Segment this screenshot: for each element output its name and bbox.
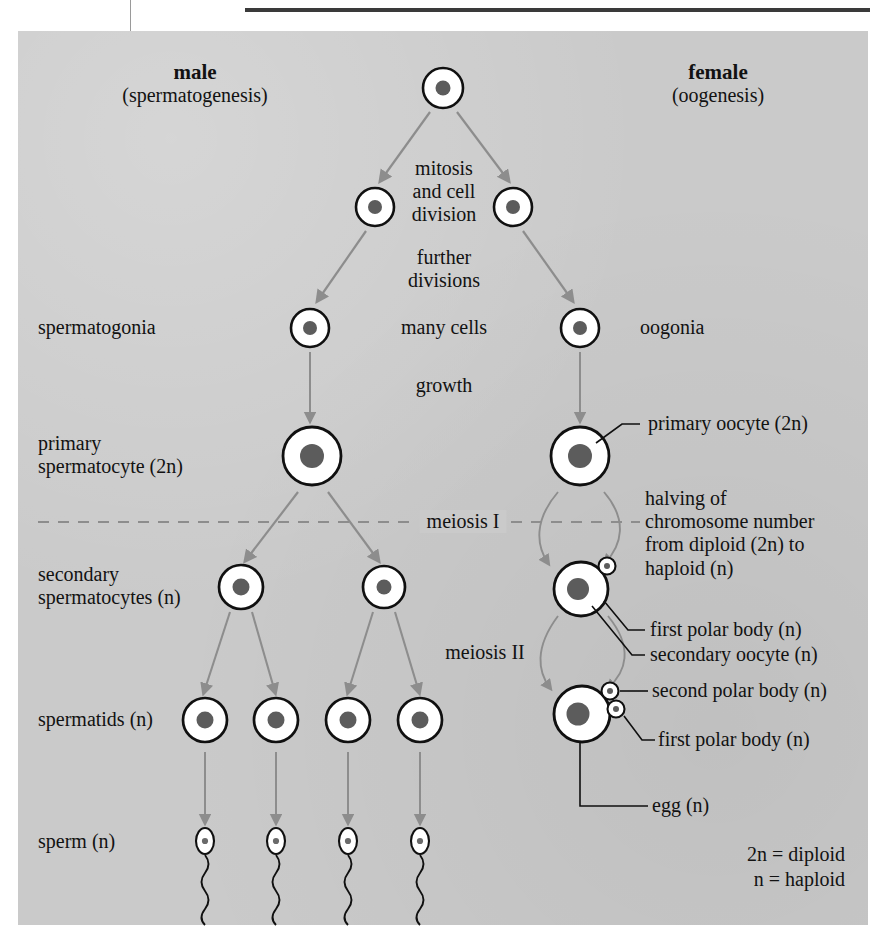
label-many-cells: many cells xyxy=(401,316,487,339)
label-growth: growth xyxy=(416,374,473,397)
label-secondary-spermatocytes: secondary spermatocytes (n) xyxy=(38,563,181,609)
label-meiosis-1: meiosis I xyxy=(420,510,507,533)
label-egg: egg (n) xyxy=(652,794,709,817)
page-header-rule xyxy=(245,8,870,12)
label-meiosis-2: meiosis II xyxy=(445,641,524,664)
label-sperm: sperm (n) xyxy=(38,830,115,853)
label-mitosis-and-cell-division: mitosis and cell division xyxy=(412,157,476,227)
key-haploid: n = haploid xyxy=(754,868,845,891)
label-further-divisions: further divisions xyxy=(408,246,480,292)
label-oogonia: oogonia xyxy=(640,316,704,339)
header-male: male xyxy=(173,60,216,84)
header-male-subtitle: (spermatogenesis) xyxy=(122,84,268,107)
header-female: female xyxy=(688,60,747,84)
label-second-polar-body: second polar body (n) xyxy=(652,679,827,702)
label-secondary-oocyte: secondary oocyte (n) xyxy=(650,643,818,666)
label-spermatids: spermatids (n) xyxy=(38,708,153,731)
label-primary-spermatocyte: primary spermatocyte (2n) xyxy=(38,432,183,478)
label-halving-note: halving of chromosome number from diploi… xyxy=(645,487,814,580)
label-first-polar-body-upper: first polar body (n) xyxy=(650,618,802,641)
page-gutter-rule xyxy=(130,0,131,33)
label-first-polar-body-lower: first polar body (n) xyxy=(658,728,810,751)
header-female-subtitle: (oogenesis) xyxy=(672,84,764,107)
key-diploid: 2n = diploid xyxy=(747,843,845,866)
label-primary-oocyte: primary oocyte (2n) xyxy=(648,412,808,435)
label-spermatogonia: spermatogonia xyxy=(38,316,156,339)
